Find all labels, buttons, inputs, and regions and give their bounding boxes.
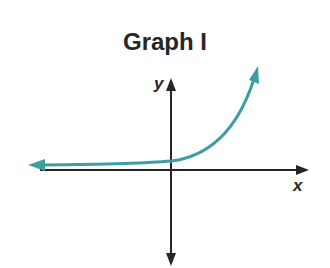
y-axis-down-arrow-icon — [166, 253, 176, 266]
y-axis — [166, 78, 176, 266]
x-axis-label: x — [293, 176, 302, 196]
curve-right-arrow-icon — [249, 66, 259, 84]
y-axis-up-arrow-icon — [166, 78, 176, 91]
y-axis-label: y — [154, 74, 163, 94]
x-axis-right-arrow-icon — [296, 165, 309, 175]
x-axis — [40, 165, 309, 175]
plot-area — [0, 0, 330, 268]
curve-left-arrow-icon — [28, 159, 45, 171]
exponential-curve — [28, 66, 259, 171]
